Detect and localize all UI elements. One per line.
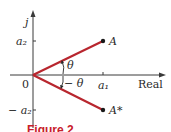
tick-label-a1: a₁ (98, 80, 109, 91)
angle-label-theta: θ (67, 60, 74, 71)
point-A-conjugate (101, 108, 105, 112)
origin-label: 0 (22, 79, 29, 90)
tick-label-a2: a₂ (16, 36, 27, 47)
point-label-A: A (109, 36, 117, 47)
angle-label-neg-theta: − θ (64, 78, 83, 89)
imaginary-axis-label: j (25, 17, 28, 28)
point-label-A-conjugate: A* (109, 105, 122, 116)
point-A (101, 39, 105, 43)
figure-caption: Figure 2 (27, 124, 74, 132)
real-axis-label: Real (138, 79, 163, 90)
tick-label-neg-a2: − a₂ (8, 105, 32, 116)
real-axis-arrowhead-icon (159, 73, 166, 78)
imaginary-axis-arrowhead-icon (31, 10, 36, 17)
